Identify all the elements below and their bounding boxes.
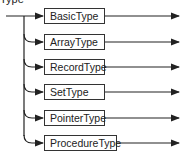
- node-label: PointerType: [50, 112, 106, 124]
- node-settype: SetType: [44, 84, 105, 100]
- node-label: ProcedureType: [50, 137, 121, 149]
- node-pointertype: PointerType: [44, 110, 105, 126]
- node-label: RecordType: [50, 61, 107, 73]
- node-recordtype: RecordType: [44, 59, 105, 75]
- node-label: SetType: [50, 86, 89, 98]
- node-basictype: BasicType: [44, 8, 105, 24]
- syntax-diagram: Type BasicType ArrayType RecordType S: [0, 0, 187, 161]
- node-proceduretype: ProcedureType: [44, 135, 117, 151]
- node-label: ArrayType: [50, 36, 98, 48]
- node-label: BasicType: [50, 10, 98, 22]
- node-arraytype: ArrayType: [44, 34, 105, 50]
